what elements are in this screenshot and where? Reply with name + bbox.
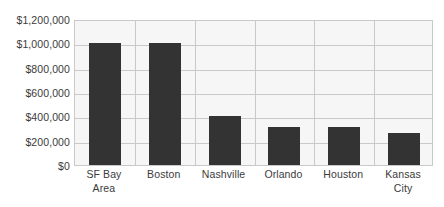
x-axis-tick-label: Boston <box>134 168 194 182</box>
x-axis-tick-label: SF BayArea <box>74 168 134 195</box>
bar <box>149 43 181 165</box>
x-axis-tick-label-line: Nashville <box>194 168 254 182</box>
y-axis-tick-label: $1,200,000 <box>0 15 70 26</box>
plot-area <box>74 20 433 166</box>
y-axis: $0$200,000$400,000$600,000$800,000$1,000… <box>0 0 70 207</box>
y-axis-tick-label: $800,000 <box>0 63 70 74</box>
y-axis-tick-label: $600,000 <box>0 88 70 99</box>
x-axis-tick-label-line: Area <box>74 182 134 196</box>
bar <box>209 116 241 165</box>
x-axis-tick-label: KansasCity <box>373 168 433 195</box>
bar-chart: $0$200,000$400,000$600,000$800,000$1,000… <box>0 0 444 207</box>
y-axis-tick-label: $1,000,000 <box>0 39 70 50</box>
bar <box>89 43 121 165</box>
x-axis-tick-label: Nashville <box>194 168 254 182</box>
x-axis-tick-label-line: Boston <box>134 168 194 182</box>
x-axis: SF BayAreaBostonNashvilleOrlandoHoustonK… <box>74 168 433 207</box>
y-axis-tick-label: $400,000 <box>0 112 70 123</box>
bar <box>388 133 420 165</box>
bar <box>268 127 300 165</box>
x-axis-tick-label-line: Orlando <box>254 168 314 182</box>
bars-layer <box>75 21 432 165</box>
bar <box>328 127 360 165</box>
y-axis-tick-label: $200,000 <box>0 136 70 147</box>
y-axis-tick-label: $0 <box>0 161 70 172</box>
x-axis-tick-label-line: City <box>373 182 433 196</box>
x-axis-tick-label-line: Kansas <box>373 168 433 182</box>
x-axis-tick-label-line: SF Bay <box>74 168 134 182</box>
x-axis-tick-label-line: Houston <box>313 168 373 182</box>
x-axis-tick-label: Orlando <box>254 168 314 182</box>
x-axis-tick-label: Houston <box>313 168 373 182</box>
